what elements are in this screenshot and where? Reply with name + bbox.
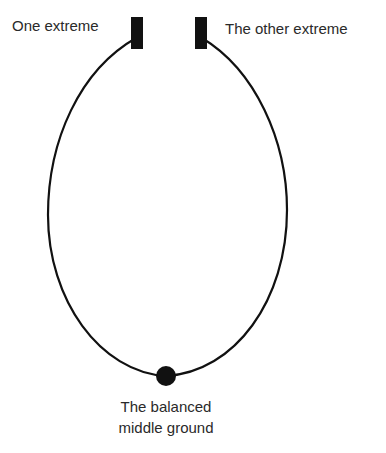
middle-ground-label: The balanced middle ground [86, 396, 246, 438]
right-extreme-label: The other extreme [225, 20, 348, 38]
left-extreme-label: One extreme [12, 17, 99, 35]
left-arc [48, 38, 166, 376]
middle-ground-label-line2: middle ground [86, 417, 246, 438]
right-arc [166, 38, 287, 376]
right-extreme-marker [195, 17, 207, 49]
left-extreme-marker [131, 17, 143, 49]
middle-ground-label-line1: The balanced [86, 396, 246, 417]
balance-diagram [0, 0, 386, 453]
middle-ground-dot [156, 366, 176, 386]
